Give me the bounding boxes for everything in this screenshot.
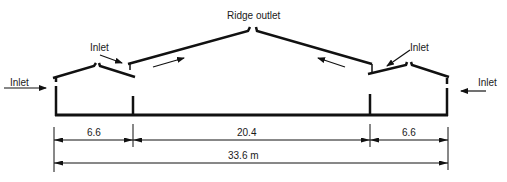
arrow-flow-left-interior [153,58,184,67]
inlet-right-wall-label: Inlet [478,78,497,88]
dim-total-span-label: 33.6 m [228,151,259,161]
left-bay-roof [53,63,135,78]
right-bay-roof [368,62,449,77]
inlet-right-roof-label: Inlet [410,43,429,53]
arrow-flow-right-interior [318,58,345,67]
arrow-inlet-left-roof [100,55,122,63]
ridge-outlet-label: Ridge outlet [227,11,280,21]
dim-left-span-label: 6.6 [87,128,101,138]
inlet-left-roof-label: Inlet [90,43,109,53]
inlet-left-wall-label: Inlet [10,78,29,88]
dim-right-span-label: 6.6 [402,128,416,138]
dim-center-span-label: 20.4 [237,128,256,138]
main-roof [128,27,372,72]
walls [56,78,447,116]
ventilation-section-diagram: Ridge outlet Inlet Inlet Inlet Inlet 6.6… [0,0,507,182]
